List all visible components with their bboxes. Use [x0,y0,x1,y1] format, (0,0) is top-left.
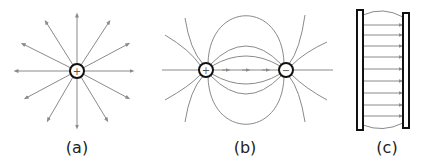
figure-label-a: (a) [66,138,88,157]
negative-charge-b: − [279,63,293,77]
negative-plate [403,13,409,128]
field-line-diagram: + + − [0,0,423,165]
figure-b-dipole [162,15,333,124]
positive-charge-b: + [199,63,213,77]
figure-label-c: (c) [376,138,397,157]
positive-plate [357,10,363,130]
svg-text:+: + [202,65,210,76]
figure-c-parallel-plates [363,11,403,129]
svg-text:−: − [282,65,290,76]
positive-charge-a: + [70,64,84,78]
svg-text:+: + [73,66,81,77]
figure-label-b: (b) [234,138,257,157]
